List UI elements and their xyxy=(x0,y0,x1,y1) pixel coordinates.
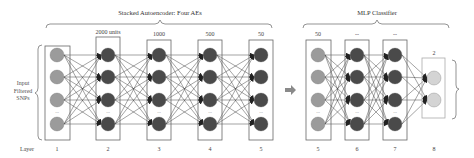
mlp-layer-8-box xyxy=(422,58,445,118)
neuron-node xyxy=(311,70,325,84)
input-label-line-1: Input xyxy=(12,80,34,88)
neuron-node xyxy=(203,93,217,107)
neuron-node xyxy=(50,117,64,131)
neuron-node xyxy=(152,117,166,131)
neuron-node xyxy=(350,117,364,131)
neuron-node xyxy=(101,93,115,107)
mlp-layer-6-units-label: -- xyxy=(355,31,359,37)
neuron-node xyxy=(152,48,166,62)
connection-edge xyxy=(402,100,427,124)
neuron-node xyxy=(50,93,64,107)
neuron-node xyxy=(50,48,64,62)
mlp-brace xyxy=(303,20,449,28)
neuron-node xyxy=(254,70,268,84)
neuron-node xyxy=(254,48,268,62)
ellipsis-indicator: ... xyxy=(106,109,110,114)
mlp-layer-5-units-label: 50 xyxy=(315,31,321,37)
neuron-node xyxy=(203,70,217,84)
neuron-node xyxy=(311,117,325,131)
output-layer-units-label: 2 xyxy=(433,50,436,56)
neuron-node xyxy=(101,48,115,62)
layer-3-units-label: 1000 xyxy=(153,31,165,37)
neuron-node xyxy=(203,48,217,62)
ellipsis-indicator: ... xyxy=(55,109,59,114)
neuron-node xyxy=(350,48,364,62)
connection-edge xyxy=(402,78,427,124)
neuron-node xyxy=(311,93,325,107)
neuron-node xyxy=(427,71,441,85)
neuron-node xyxy=(152,70,166,84)
neuron-node xyxy=(388,70,402,84)
input-brace xyxy=(35,45,42,140)
neuron-node xyxy=(203,117,217,131)
ellipsis-indicator: ... xyxy=(157,109,161,114)
layer-5-units-label: 50 xyxy=(258,31,264,37)
neuron-node xyxy=(152,93,166,107)
neuron-node xyxy=(388,93,402,107)
neuron-node xyxy=(254,117,268,131)
mlp-layer-number-6: 6 xyxy=(356,146,359,152)
output-brace xyxy=(452,60,459,119)
connection-edges xyxy=(64,55,427,124)
layer-number-4: 4 xyxy=(209,146,212,152)
input-label-line-2: Filtered xyxy=(12,88,34,96)
layer-number-2: 2 xyxy=(107,146,110,152)
mlp-layer-number-5: 5 xyxy=(317,146,320,152)
network-graph: ........................ xyxy=(0,0,474,158)
input-label-line-3: SNPs xyxy=(12,95,34,103)
ellipsis-indicator: ... xyxy=(355,109,359,114)
ellipsis-indicator: ... xyxy=(259,109,263,114)
layer-2-units-label: 2000 units xyxy=(95,29,120,35)
layer-row-label: Layer xyxy=(20,146,34,152)
ellipsis-indicator: ... xyxy=(393,109,397,114)
neuron-node xyxy=(254,93,268,107)
layer-number-3: 3 xyxy=(158,146,161,152)
neuron-node xyxy=(101,70,115,84)
autoencoder-brace xyxy=(46,20,272,28)
layer-number-5: 5 xyxy=(260,146,263,152)
neuron-node xyxy=(311,48,325,62)
mlp-title: MLP Classifier xyxy=(357,10,397,17)
neuron-node xyxy=(350,93,364,107)
neuron-node xyxy=(388,117,402,131)
mlp-layer-number-7: 7 xyxy=(394,146,397,152)
mlp-layer-7-units-label: -- xyxy=(393,31,397,37)
layer-number-1: 1 xyxy=(56,146,59,152)
transition-arrow-icon xyxy=(285,85,296,95)
neuron-node xyxy=(388,48,402,62)
mlp-layer-number-8: 8 xyxy=(433,146,436,152)
layer-4-units-label: 500 xyxy=(206,31,215,37)
ellipsis-indicator: ... xyxy=(316,109,320,114)
autoencoder-title: Stacked Autoencoder: Four AEs xyxy=(118,10,202,17)
neuron-node xyxy=(350,70,364,84)
input-filtered-snps-label: Input Filtered SNPs xyxy=(12,80,34,103)
stacked-autoencoder-mlp-diagram: ........................ Stacked Autoenc… xyxy=(0,0,474,158)
connection-edge xyxy=(402,55,427,78)
ellipsis-indicator: ... xyxy=(208,109,212,114)
neuron-node xyxy=(50,70,64,84)
neuron-node xyxy=(101,117,115,131)
neuron-node xyxy=(427,93,441,107)
